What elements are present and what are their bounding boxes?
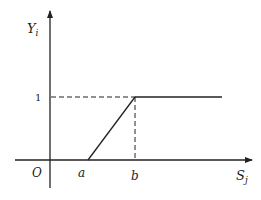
- x-tick-label-a: a: [78, 166, 85, 180]
- x-axis-label: Sj: [236, 168, 248, 185]
- y-axis-label: Yi: [27, 21, 39, 38]
- origin-label: O: [32, 166, 42, 180]
- ramp-segment: [88, 97, 135, 160]
- x-tick-label-b: b: [131, 169, 139, 183]
- y-tick-label-1: 1: [35, 92, 41, 103]
- diagram-canvas: Yi 1 O a b Sj: [0, 0, 261, 200]
